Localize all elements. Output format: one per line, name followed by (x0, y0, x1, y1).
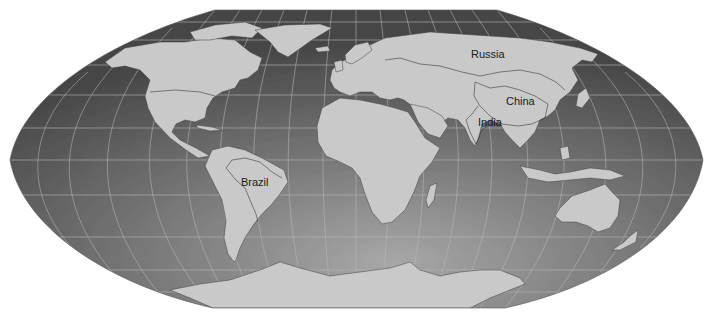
label-russia: Russia (471, 48, 506, 60)
label-china: China (506, 95, 536, 107)
world-map: Russia China India Brazil (0, 0, 713, 316)
label-india: India (478, 116, 503, 128)
map-canvas: Russia China India Brazil (0, 0, 713, 316)
philippines (560, 146, 570, 160)
label-brazil: Brazil (241, 176, 269, 188)
